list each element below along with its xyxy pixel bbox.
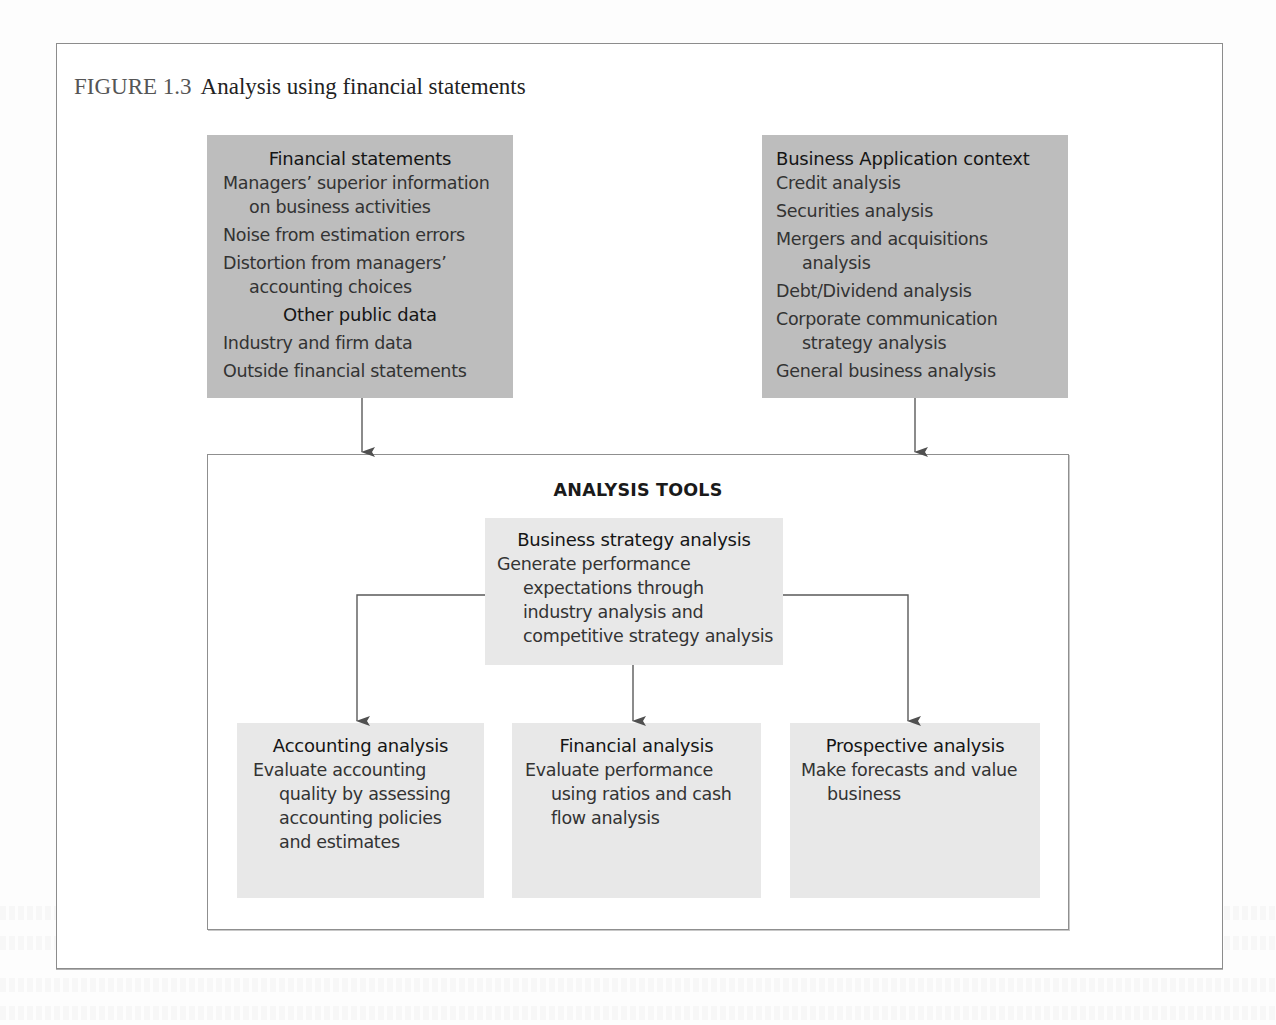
context-item: analysis: [776, 251, 1068, 275]
output-line: Make forecasts and value: [801, 758, 1040, 782]
strategy-line: Generate performance: [497, 552, 783, 576]
context-item: General business analysis: [776, 359, 1068, 383]
context-item: Securities analysis: [776, 199, 1068, 223]
input-item: Industry and firm data: [223, 331, 513, 355]
output-line: accounting policies: [253, 806, 484, 830]
input-item: accounting choices: [223, 275, 513, 299]
accounting-analysis-heading: Accounting analysis: [237, 734, 484, 758]
input-item: Managers’ superior information: [223, 171, 513, 195]
input-item: Distortion from managers’: [223, 251, 513, 275]
strategy-line: expectations through: [497, 576, 783, 600]
business-strategy-box: Business strategy analysis Generate perf…: [485, 518, 783, 665]
output-line: Evaluate performance: [525, 758, 761, 782]
bleed-through-text: [0, 978, 1276, 992]
input-item: Outside financial statements: [223, 359, 513, 383]
analysis-tools-title: ANALYSIS TOOLS: [207, 480, 1069, 500]
other-public-data-heading: Other public data: [207, 303, 513, 327]
output-line: flow analysis: [525, 806, 761, 830]
output-line: business: [801, 782, 1040, 806]
financial-analysis-heading: Financial analysis: [512, 734, 761, 758]
financial-statements-box: Financial statements Managers’ superior …: [207, 135, 513, 398]
output-line: using ratios and cash: [525, 782, 761, 806]
output-line: Evaluate accounting: [253, 758, 484, 782]
context-item: Credit analysis: [776, 171, 1068, 195]
business-strategy-heading: Business strategy analysis: [485, 528, 783, 552]
output-line: and estimates: [253, 830, 484, 854]
prospective-analysis-box: Prospective analysis Make forecasts and …: [790, 723, 1040, 898]
context-item: Mergers and acquisitions: [776, 227, 1068, 251]
context-item: strategy analysis: [776, 331, 1068, 355]
input-item: Noise from estimation errors: [223, 223, 513, 247]
figure-title: Analysis using financial statements: [201, 74, 526, 99]
input-item: on business activities: [223, 195, 513, 219]
figure-number: FIGURE 1.3: [74, 74, 192, 99]
output-line: quality by assessing: [253, 782, 484, 806]
context-item: Debt/Dividend analysis: [776, 279, 1068, 303]
bleed-through-text: [0, 1006, 1276, 1020]
strategy-line: industry analysis and: [497, 600, 783, 624]
financial-statements-heading: Financial statements: [207, 147, 513, 171]
business-context-heading: Business Application context: [776, 147, 1068, 171]
business-context-box: Business Application context Credit anal…: [762, 135, 1068, 398]
strategy-line: competitive strategy analysis: [497, 624, 783, 648]
figure-caption: FIGURE 1.3Analysis using financial state…: [74, 74, 526, 100]
context-item: Corporate communication: [776, 307, 1068, 331]
accounting-analysis-box: Accounting analysis Evaluate accounting …: [237, 723, 484, 898]
financial-analysis-box: Financial analysis Evaluate performance …: [512, 723, 761, 898]
prospective-analysis-heading: Prospective analysis: [790, 734, 1040, 758]
